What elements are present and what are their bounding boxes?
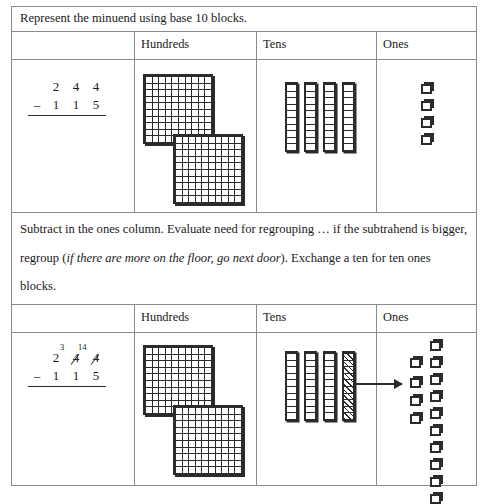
- step-2-subtrahend-ones: 5: [86, 369, 106, 384]
- step-2-ones-regrouped-value: 14: [78, 343, 87, 352]
- step-2-minuend-tens-regrouped: 3 4: [66, 351, 86, 366]
- step-1-body-row: 2 4 4 – 1 1 5: [12, 60, 476, 213]
- one-cube-block: [421, 84, 432, 94]
- step-2-header-row: Hundreds Tens Ones: [12, 305, 476, 333]
- one-cube-block-exchanged: [430, 375, 441, 385]
- step-2-body-row: 2 3 4 14 4 – 1 1 5: [12, 333, 476, 486]
- step-1-minuend-tens: 4: [66, 80, 86, 95]
- one-cube-block: [410, 358, 421, 368]
- step-2-header-hundreds: Hundreds: [135, 305, 257, 332]
- step-2-hundreds-cell: [135, 333, 257, 486]
- worksheet-table: Represent the minuend using base 10 bloc…: [11, 6, 477, 486]
- ten-rod-block: [323, 82, 336, 152]
- step-2-ones-crossed-digit: 4: [93, 351, 100, 364]
- ten-rod-block: [323, 351, 336, 421]
- ten-rod-block: [342, 82, 355, 152]
- one-cube-block: [421, 118, 432, 128]
- ten-rod-block: [304, 351, 317, 421]
- step-2-minuend-hundreds: 2: [46, 351, 66, 366]
- one-cube-block: [410, 378, 421, 388]
- one-cube-block-exchanged: [430, 409, 441, 419]
- step-1-header-row: Hundreds Tens Ones: [12, 32, 476, 60]
- step-2-minuend-ones-regrouped: 14 4: [86, 351, 106, 366]
- step-1-header-problem: [12, 32, 135, 59]
- step-1-header-tens: Tens: [257, 32, 377, 59]
- step-1-tens-cell: [257, 60, 377, 212]
- one-cube-block: [410, 396, 421, 406]
- step-2-tens-crossed-digit: 4: [73, 351, 80, 364]
- hundred-flat-block: [173, 405, 243, 475]
- step-2-problem-cell: 2 3 4 14 4 – 1 1 5: [12, 333, 135, 486]
- step-1-subtrahend-tens: 1: [66, 98, 86, 113]
- step-1-subtrahend-ones: 5: [86, 98, 106, 113]
- ten-rod-block-crossed-out: [342, 351, 355, 421]
- ten-rod-block: [285, 351, 298, 421]
- step-1-answer-rule: [28, 115, 106, 116]
- ten-rod-block: [304, 82, 317, 152]
- one-cube-block: [410, 414, 421, 424]
- step-1-minus-sign: –: [28, 98, 46, 113]
- one-cube-block-exchanged: [430, 477, 441, 487]
- step-1-header-ones: Ones: [377, 32, 476, 59]
- step-2-header-problem: [12, 305, 135, 332]
- step-1-subtrahend-hundreds: 1: [46, 98, 66, 113]
- one-cube-block-exchanged: [430, 494, 441, 504]
- one-cube-block-exchanged: [430, 358, 441, 368]
- step-2-subtrahend-hundreds: 1: [46, 369, 66, 384]
- step-2-tens-regrouped-value: 3: [60, 343, 64, 352]
- step-2-subtrahend-tens: 1: [66, 369, 86, 384]
- step-2-ones-cell: [377, 333, 476, 486]
- step-1-instruction: Represent the minuend using base 10 bloc…: [12, 7, 476, 32]
- step-2-header-ones: Ones: [377, 305, 476, 332]
- step-2-header-tens: Tens: [257, 305, 377, 332]
- one-cube-block-exchanged: [430, 460, 441, 470]
- step-2-minus-sign: –: [28, 369, 46, 384]
- step-1-subtraction-problem: 2 4 4 – 1 1 5: [28, 80, 106, 116]
- ten-rod-block: [285, 82, 298, 152]
- one-cube-block: [421, 135, 432, 145]
- one-cube-block-exchanged: [430, 341, 441, 351]
- step-1-problem-cell: 2 4 4 – 1 1 5: [12, 60, 135, 212]
- step-1-ones-cell: [377, 60, 476, 212]
- step-2-answer-rule: [28, 386, 106, 387]
- step-1-hundreds-cell: [135, 60, 257, 212]
- one-cube-block: [421, 101, 432, 111]
- step-2-tens-cell: [257, 333, 377, 486]
- one-cube-block-exchanged: [430, 392, 441, 402]
- step-1-minuend-hundreds: 2: [46, 80, 66, 95]
- step-1-header-hundreds: Hundreds: [135, 32, 257, 59]
- one-cube-block-exchanged: [430, 426, 441, 436]
- hundred-flat-block: [173, 134, 243, 204]
- step-2-subtraction-problem: 2 3 4 14 4 – 1 1 5: [28, 351, 106, 387]
- step-2-instruction-italic: if there are more on the floor, go next …: [67, 251, 281, 265]
- step-1-minuend-ones: 4: [86, 80, 106, 95]
- one-cube-block-exchanged: [430, 443, 441, 453]
- step-2-instruction: Subtract in the ones column. Evaluate ne…: [12, 213, 476, 305]
